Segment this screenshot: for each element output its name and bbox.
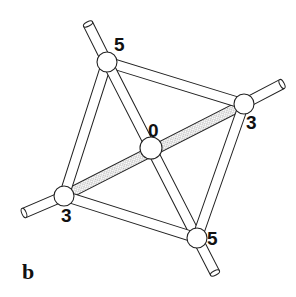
node-label-right: 3 (246, 112, 257, 133)
node-label-top: 5 (114, 34, 125, 55)
node-label-center: 0 (148, 120, 159, 141)
panel-label: b (22, 259, 34, 284)
diagram-canvas: 5 3 0 3 5 b (0, 0, 296, 297)
octahedron-diagram: 5 3 0 3 5 b (0, 0, 296, 297)
node-bottom (187, 228, 207, 248)
node-left (54, 186, 74, 206)
node-right (234, 94, 254, 114)
node-label-left: 3 (61, 205, 72, 226)
node-label-bottom: 5 (207, 228, 218, 249)
node-top (97, 52, 117, 72)
